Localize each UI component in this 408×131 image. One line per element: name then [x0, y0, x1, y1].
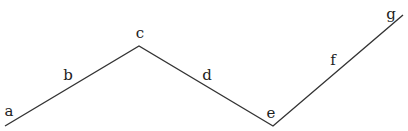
- label-c: c: [136, 26, 144, 41]
- zigzag-diagram: a b c d e f g: [0, 0, 408, 131]
- label-b: b: [63, 68, 73, 83]
- label-a: a: [5, 104, 14, 119]
- label-f: f: [330, 53, 336, 68]
- label-g: g: [386, 7, 396, 22]
- label-d: d: [202, 68, 212, 83]
- label-e: e: [267, 106, 276, 121]
